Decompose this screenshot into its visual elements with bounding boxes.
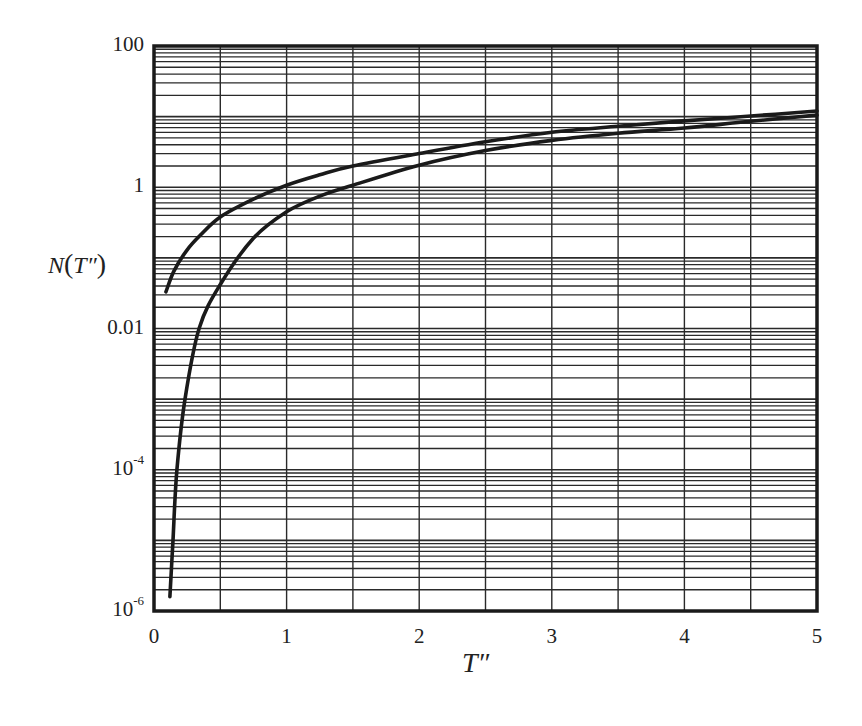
x-axis-label: T″ — [462, 647, 489, 679]
y-axis-label-n: N — [48, 252, 64, 278]
y-tick-label: 1 — [34, 173, 144, 198]
data-curves — [166, 111, 817, 597]
x-tick-label: 2 — [399, 624, 439, 649]
x-tick-label: 4 — [664, 624, 704, 649]
y-axis-label-open-paren: ( — [64, 248, 73, 279]
x-tick-label: 5 — [797, 624, 837, 649]
grid-lines — [154, 46, 817, 611]
y-axis-label-close-paren: ) — [97, 248, 106, 279]
x-tick-label: 3 — [532, 624, 572, 649]
y-axis-label: N(T″) — [48, 248, 106, 280]
y-tick-label: 0.01 — [34, 315, 144, 340]
y-axis-label-t: T″ — [73, 252, 96, 278]
y-tick-label: 10-6 — [34, 597, 144, 622]
x-tick-label: 1 — [267, 624, 307, 649]
y-tick-label: 100 — [34, 32, 144, 57]
x-tick-label: 0 — [134, 624, 174, 649]
y-tick-label: 10-4 — [34, 456, 144, 481]
